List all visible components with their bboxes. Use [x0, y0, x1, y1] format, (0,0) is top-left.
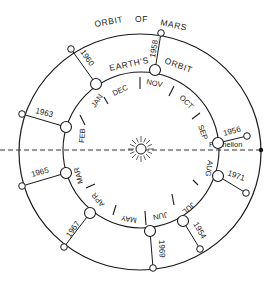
month-jul: JUL — [180, 200, 196, 215]
year-1971: 1971 — [226, 168, 246, 183]
month-aug: AUG — [203, 160, 215, 178]
month-dec: DEC — [111, 83, 130, 98]
orbit-labels: ORBIT OF MARS EARTH'S ORBIT — [94, 14, 194, 75]
year-1954: 1954 — [191, 221, 208, 241]
earth-orbit-label-1: EARTH'S — [108, 55, 149, 73]
month-feb: FEB — [77, 128, 87, 143]
year-1969: 1969 — [157, 240, 167, 259]
month-jan: JAN — [89, 92, 105, 109]
month-may: MAY — [120, 213, 137, 225]
month-sep: SEP — [196, 124, 210, 141]
year-1960: 1960 — [78, 48, 96, 68]
perihelion-point — [259, 148, 263, 152]
month-apr: APR — [89, 190, 106, 208]
year-1965: 1965 — [30, 165, 50, 178]
opposition-lines — [22, 33, 247, 268]
month-nov: NOV — [146, 77, 164, 89]
mars-orbit-label-2: OF — [135, 14, 148, 24]
diagram-canvas: Perihelion — [0, 0, 266, 284]
mars-orbit-label-3: MARS — [160, 17, 188, 32]
month-oct: OCT — [178, 93, 196, 111]
year-1967: 1967 — [64, 219, 82, 239]
earth-orbit-label-2: ORBIT — [163, 55, 194, 74]
year-1956: 1956 — [222, 124, 242, 137]
month-jun: JUN — [152, 210, 168, 222]
month-mar: MAR — [72, 166, 85, 185]
sun-icon — [128, 136, 154, 162]
mars-orbit-label-1: ORBIT — [94, 14, 124, 29]
mars-opposition-diagram: Perihelion — [0, 0, 266, 284]
year-1958: 1958 — [148, 39, 160, 59]
year-1963: 1963 — [35, 106, 55, 119]
